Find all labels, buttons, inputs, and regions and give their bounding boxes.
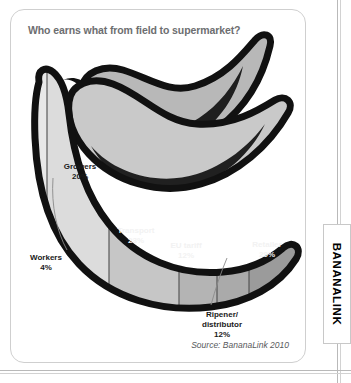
- label-eu-tariff-value: 12%: [155, 251, 217, 261]
- label-growers: Growers 20%: [47, 162, 113, 182]
- source-credit: Source: BananaLink 2010: [191, 340, 289, 350]
- label-ripener-name-line2: distributor: [179, 320, 265, 330]
- label-workers-value: 4%: [13, 263, 79, 273]
- sidebar-tab-bananalink[interactable]: BANANALINK: [323, 224, 351, 344]
- page-background: Who earns what from field to supermarket…: [0, 0, 351, 383]
- label-ripener-name: Ripener/: [206, 310, 238, 319]
- label-eu-tariff: EU tariff 12%: [155, 241, 217, 261]
- label-workers: Workers 4%: [13, 253, 79, 273]
- label-growers-value: 20%: [47, 172, 113, 182]
- label-retailer-name: Retailer: [252, 240, 281, 249]
- label-transport-name: Transport: [118, 226, 155, 235]
- label-ripener-distributor: Ripener/ distributor 12%: [179, 310, 265, 341]
- page-rule-horizontal-inner: [0, 373, 351, 374]
- label-growers-name: Growers: [64, 162, 96, 171]
- page-rule-horizontal-outer: [0, 370, 351, 371]
- label-retailer: Retailer 29%: [232, 240, 302, 260]
- infographic-card: Who earns what from field to supermarket…: [10, 9, 306, 363]
- label-workers-name: Workers: [30, 253, 62, 262]
- label-eu-tariff-name: EU tariff: [170, 241, 201, 250]
- sidebar-tab-label: BANANALINK: [331, 243, 343, 326]
- label-retailer-value: 29%: [232, 250, 302, 260]
